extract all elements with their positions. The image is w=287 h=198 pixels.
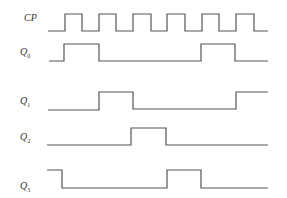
waveforms bbox=[0, 0, 287, 198]
timing-diagram: CP Q0 Q1 Q2 Q3 bbox=[0, 0, 287, 198]
waveform-q1 bbox=[48, 92, 268, 110]
waveform-q3 bbox=[47, 170, 268, 188]
waveform-cp bbox=[48, 14, 268, 31]
waveform-q0 bbox=[49, 44, 268, 61]
waveform-q2 bbox=[47, 128, 268, 145]
